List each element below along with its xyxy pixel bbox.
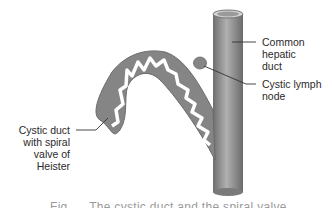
figure-caption: Fig. ... The cystic duct and the spiral … [50,200,287,208]
diagram-illustration [0,0,332,208]
label-common-hepatic-duct: Common hepatic duct [262,36,305,72]
label-cystic-duct: Cystic duct with spiral valve of Heister [4,124,70,172]
common-hepatic-duct [213,10,243,196]
label-cystic-lymph-node: Cystic lymph node [262,78,322,102]
cystic-lymph-node [194,57,207,69]
